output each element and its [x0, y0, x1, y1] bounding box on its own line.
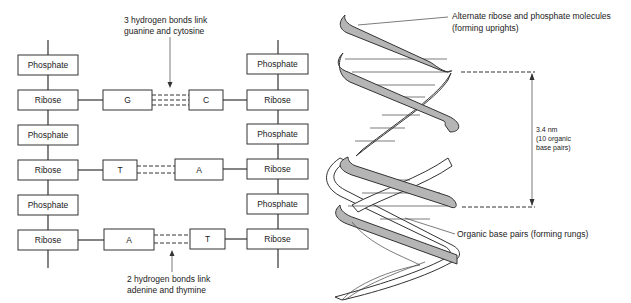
box-label: Phosphate: [28, 200, 69, 210]
right-ribose-3: Ribose: [247, 229, 308, 249]
left-phosphate-3: Phosphate: [18, 195, 78, 215]
arrowhead-icon: [168, 82, 173, 88]
box-label: Phosphate: [257, 199, 298, 209]
box-label: Phosphate: [257, 59, 298, 69]
rungs-label: Organic base pairs (forming rungs): [457, 229, 589, 239]
box-label: Phosphate: [28, 130, 69, 140]
arrowhead-icon: [170, 250, 175, 256]
box-label: Ribose: [264, 164, 291, 174]
box-label: Ribose: [264, 234, 291, 244]
base-pair-a-t: A T: [78, 229, 247, 250]
dna-structure-diagram: Phosphate Ribose Phosphate Ribose Phosph…: [0, 0, 631, 303]
base-pair-t-a: T A: [78, 159, 247, 180]
helix-front-strand: [336, 15, 459, 264]
base-t-label: T: [117, 165, 122, 175]
left-ribose-2: Ribose: [18, 160, 78, 180]
base-pair-g-c: G C: [78, 90, 247, 110]
box-label: Ribose: [35, 95, 62, 105]
base-g-label: G: [124, 95, 131, 105]
left-ribose-3: Ribose: [18, 230, 78, 250]
box-label: Ribose: [35, 235, 62, 245]
at-bond-annotation: 2 hydrogen bonds link adenine and thymin…: [127, 250, 211, 295]
base-t-label: T: [205, 234, 210, 244]
base-a-label: A: [196, 165, 202, 175]
pitch-dimension: 3.4 nm (10 organic base pairs): [461, 72, 572, 207]
pitch-label: (10 organic: [536, 135, 572, 143]
annotation-line: adenine and thymine: [127, 285, 206, 295]
uprights-label: (forming uprights): [452, 23, 519, 33]
uprights-label: Alternate ribose and phosphate molecules: [452, 11, 611, 21]
left-phosphate-2: Phosphate: [18, 125, 78, 145]
right-phosphate-2: Phosphate: [247, 124, 308, 144]
annotation-line: 3 hydrogen bonds link: [124, 15, 208, 25]
annotation-line: 2 hydrogen bonds link: [127, 274, 211, 284]
left-phosphate-1: Phosphate: [18, 55, 78, 75]
base-c-label: C: [203, 95, 209, 105]
box-label: Phosphate: [28, 60, 69, 70]
base-a-label: A: [126, 235, 132, 245]
pitch-label: base pairs): [536, 144, 571, 152]
right-ribose-2: Ribose: [247, 159, 308, 179]
pitch-label: 3.4 nm: [536, 126, 558, 133]
arrowhead-down-icon: [530, 199, 535, 206]
box-label: Phosphate: [257, 129, 298, 139]
right-ribose-1: Ribose: [247, 90, 308, 110]
box-label: Ribose: [264, 95, 291, 105]
arrowhead-up-icon: [530, 73, 535, 80]
dna-ladder-diagram: Phosphate Ribose Phosphate Ribose Phosph…: [18, 15, 308, 295]
right-phosphate-1: Phosphate: [247, 54, 308, 74]
box-label: Ribose: [35, 165, 62, 175]
uprights-leader-line: [358, 17, 448, 25]
left-ribose-1: Ribose: [18, 90, 78, 110]
double-helix-diagram: Alternate ribose and phosphate molecules…: [327, 11, 611, 300]
right-phosphate-3: Phosphate: [247, 194, 308, 214]
annotation-line: guanine and cytosine: [124, 26, 205, 36]
gc-bond-annotation: 3 hydrogen bonds link guanine and cytosi…: [124, 15, 208, 88]
